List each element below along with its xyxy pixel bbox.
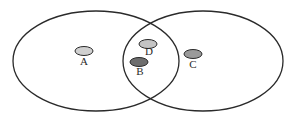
item-d: D [139,40,157,58]
item-b: B [130,58,148,78]
item-a: A [75,47,93,68]
item-c: C [184,50,202,71]
item-b-label: B [136,65,143,77]
left-set-ellipse [13,11,179,111]
item-d-label: D [145,45,153,57]
item-a-label: A [80,55,88,67]
item-c-label: C [189,58,196,70]
venn-diagram: A D B C [0,0,294,118]
